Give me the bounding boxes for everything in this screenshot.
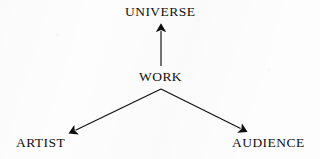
node-label-work: WORK xyxy=(139,70,182,84)
arrow-work-to-artist xyxy=(76,89,162,130)
node-label-artist: ARTIST xyxy=(16,136,65,150)
node-label-universe: UNIVERSE xyxy=(125,5,195,19)
diagram-canvas: UNIVERSE WORK ARTIST AUDIENCE xyxy=(0,0,320,159)
arrow-work-to-audience xyxy=(161,89,241,129)
node-label-audience: AUDIENCE xyxy=(232,136,305,150)
